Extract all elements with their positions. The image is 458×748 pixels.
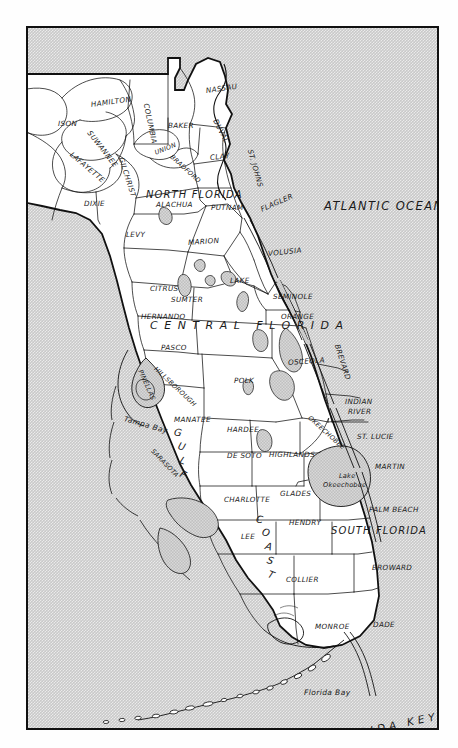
state-line-north xyxy=(28,58,379,648)
map-frame: ISONHAMILTONSUWANNEECOLUMBIABAKERNASSAUD… xyxy=(26,26,439,730)
pine-island-sound xyxy=(158,528,191,574)
florida-map-svg xyxy=(28,28,437,728)
map-root: ISONHAMILTONSUWANNEECOLUMBIABAKERNASSAUD… xyxy=(0,0,458,748)
florida-keys-islands xyxy=(103,653,331,724)
